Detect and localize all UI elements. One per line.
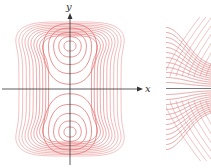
x-axis: x [2,83,151,94]
x-axis-arrow-icon [137,87,143,92]
y-axis-arrow-icon [68,13,73,19]
contour-figure: x y [0,0,211,167]
y-axis-label: y [65,1,72,12]
right-saddle-closeup-plot [164,7,211,168]
y-axis: y [65,1,73,165]
x-axis-label: x [145,83,151,94]
